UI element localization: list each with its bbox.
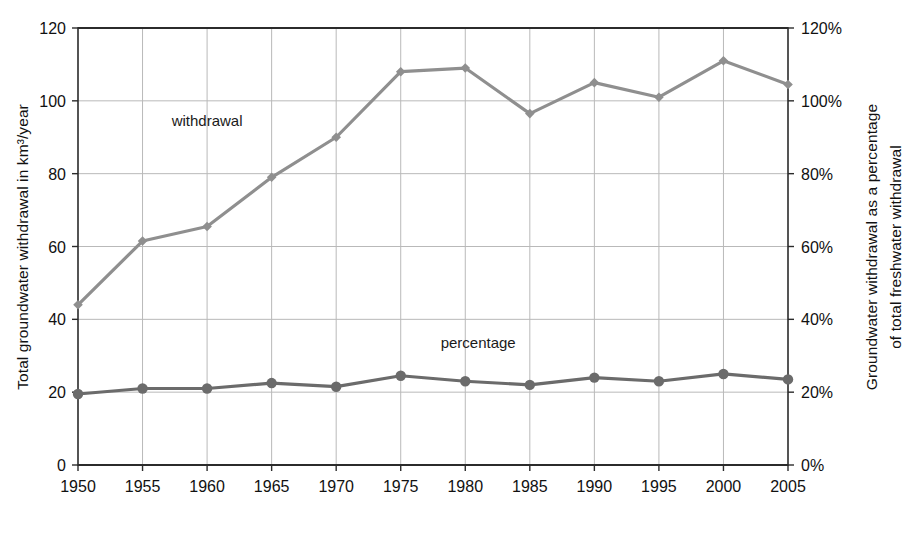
annotation-percentage: percentage [441, 334, 516, 351]
data-point [718, 369, 728, 379]
x-tick-label: 1970 [318, 478, 354, 495]
series-withdrawal [73, 56, 793, 310]
y-left-tick-label: 0 [57, 457, 66, 474]
y-right-tickmarks [788, 28, 794, 465]
y-right-tick-label: 100% [801, 93, 842, 110]
data-point [783, 374, 793, 384]
line-chart: 1950195519601965197019751980198519901995… [0, 0, 922, 536]
y-right-tick-label: 120% [801, 20, 842, 37]
y-right-tick-label: 0% [801, 457, 824, 474]
x-tick-label: 1990 [577, 478, 613, 495]
series-line-percentage [78, 374, 788, 394]
y-right-tick-label: 40% [801, 311, 833, 328]
x-tick-label: 1980 [447, 478, 483, 495]
annotation-withdrawal: withdrawal [171, 112, 243, 129]
x-tick-label: 1975 [383, 478, 419, 495]
series-line-withdrawal [78, 61, 788, 305]
x-tick-label: 1995 [641, 478, 677, 495]
y-left-tick-label: 40 [48, 311, 66, 328]
y-left-tick-label: 80 [48, 166, 66, 183]
x-tick-label: 2000 [706, 478, 742, 495]
x-tick-label: 1985 [512, 478, 548, 495]
data-point [460, 376, 470, 386]
chart-container: 1950195519601965197019751980198519901995… [0, 0, 922, 536]
y-right-axis-title-line1: Groundwater withdrawal as a percentage [863, 104, 880, 390]
y-left-tick-label: 60 [48, 239, 66, 256]
x-tick-label: 1955 [125, 478, 161, 495]
y-left-axis-title: Total groundwater withdrawal in km³/year [14, 104, 31, 390]
data-point [396, 371, 406, 381]
data-point [137, 383, 147, 393]
data-point [783, 80, 793, 90]
y-right-tick-label: 60% [801, 239, 833, 256]
data-point [73, 389, 83, 399]
data-point [654, 376, 664, 386]
y-right-tick-label: 20% [801, 384, 833, 401]
x-tick-label: 2005 [770, 478, 806, 495]
x-axis-tick-labels: 1950195519601965197019751980198519901995… [60, 478, 806, 495]
y-right-tick-labels: 0%20%40%60%80%100%120% [801, 20, 842, 474]
y-left-tick-label: 100 [39, 93, 66, 110]
y-left-tick-label: 120 [39, 20, 66, 37]
data-point [202, 383, 212, 393]
y-left-tickmarks [72, 28, 78, 465]
gridlines [78, 28, 788, 465]
y-left-tick-label: 20 [48, 384, 66, 401]
x-tick-label: 1965 [254, 478, 290, 495]
y-right-axis-title-line2: of total freshwater withdrawal [887, 145, 904, 349]
data-point [266, 378, 276, 388]
data-point [525, 380, 535, 390]
y-left-tick-labels: 020406080100120 [39, 20, 66, 474]
data-point [331, 382, 341, 392]
x-tick-label: 1960 [189, 478, 225, 495]
y-right-tick-label: 80% [801, 166, 833, 183]
x-tick-label: 1950 [60, 478, 96, 495]
data-point [589, 372, 599, 382]
series-percentage [73, 369, 793, 399]
